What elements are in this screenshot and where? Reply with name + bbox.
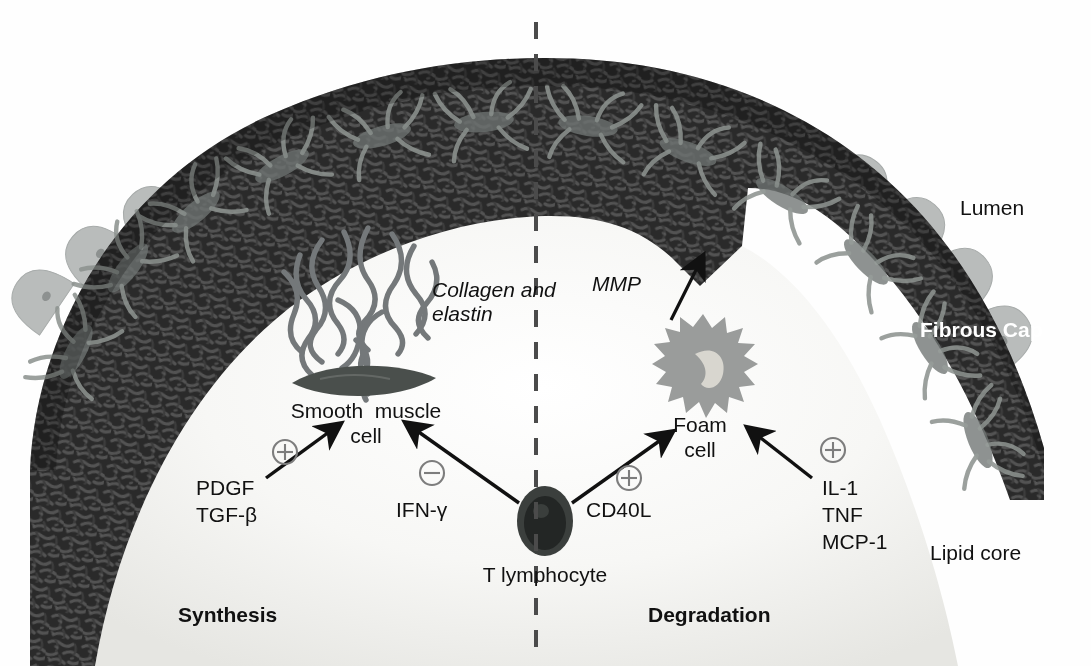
label-mmp: MMP xyxy=(592,272,641,296)
label-fibrous-cap: Fibrous Cap xyxy=(920,318,1043,342)
label-cd40l: CD40L xyxy=(586,498,651,522)
label-lumen: Lumen xyxy=(960,196,1024,220)
label-t-lymphocyte: T lymphocyte xyxy=(483,563,608,587)
label-tnf: TNF xyxy=(822,503,863,527)
label-ifn-gamma: IFN-γ xyxy=(396,498,447,522)
label-smooth-muscle-cell-line2: cell xyxy=(350,424,382,448)
label-smooth-muscle-cell-line1: Smooth muscle xyxy=(291,399,442,423)
label-tgf-beta: TGF-β xyxy=(196,503,257,527)
label-collagen-elastin-line1: Collagen and xyxy=(432,278,556,302)
label-lipid-core: Lipid core xyxy=(930,541,1021,565)
label-foam-cell-line2: cell xyxy=(684,438,716,462)
label-foam-cell-line1: Foam xyxy=(673,413,727,437)
label-panel-synthesis: Synthesis xyxy=(178,603,277,627)
t-lymphocyte-glyph xyxy=(517,486,573,556)
label-pdgf: PDGF xyxy=(196,476,254,500)
label-il-1: IL-1 xyxy=(822,476,858,500)
label-mcp-1: MCP-1 xyxy=(822,530,887,554)
label-collagen-elastin-line2: elastin xyxy=(432,302,493,326)
label-panel-degradation: Degradation xyxy=(648,603,771,627)
figure-root: Lumen Fibrous Cap Lipid core Collagen an… xyxy=(0,0,1091,666)
